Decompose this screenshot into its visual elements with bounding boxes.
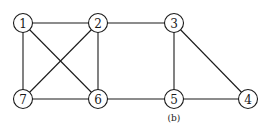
edge-3-4	[174, 23, 248, 99]
node-7: 7	[14, 90, 33, 109]
node-5: 5	[165, 90, 184, 109]
edges-group	[23, 23, 248, 99]
node-3: 3	[165, 14, 184, 33]
node-6: 6	[89, 90, 108, 109]
node-label: 7	[19, 93, 27, 107]
node-label: 5	[170, 93, 178, 107]
node-label: 4	[244, 93, 252, 107]
node-label: 6	[94, 93, 102, 107]
node-label: 3	[170, 17, 178, 31]
node-2: 2	[89, 14, 108, 33]
graph-diagram: 1234567 (b)	[0, 0, 271, 137]
node-4: 4	[239, 90, 258, 109]
node-1: 1	[14, 14, 33, 33]
nodes-group: 1234567	[14, 14, 258, 109]
node-label: 2	[94, 17, 102, 31]
figure-caption: (b)	[168, 113, 181, 123]
node-label: 1	[19, 17, 27, 31]
